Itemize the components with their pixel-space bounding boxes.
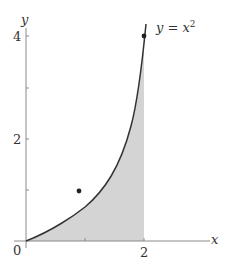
chart-container: y 4 2 0 2 x y = x2 <box>0 0 234 267</box>
point-2-4 <box>142 34 147 39</box>
y-tick-label-4: 4 <box>13 30 21 43</box>
curve-label-exponent: 2 <box>190 19 196 29</box>
curve-label-lhs: y = x <box>156 20 190 35</box>
plot-area <box>0 0 234 267</box>
x-axis-label: x <box>211 233 218 246</box>
shaded-area <box>26 36 144 241</box>
curve-label: y = x2 <box>156 20 196 34</box>
origin-label: 0 <box>13 244 21 257</box>
y-axis-label: y <box>21 13 28 26</box>
x-tick-label-2: 2 <box>140 246 148 259</box>
point-1-1 <box>77 189 82 194</box>
y-tick-label-2: 2 <box>13 133 21 146</box>
